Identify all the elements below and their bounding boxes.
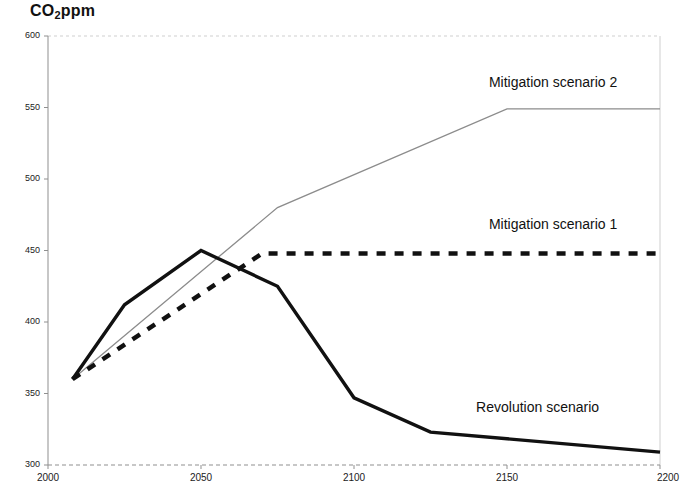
x-axis-tick-label: 2200 <box>643 472 684 483</box>
y-axis-tick-label: 400 <box>4 316 40 326</box>
x-axis-tick-label: 2000 <box>23 472 73 483</box>
series-line-3 <box>73 251 661 453</box>
series-label: Revolution scenario <box>476 399 599 415</box>
series-line-1 <box>73 109 661 379</box>
series-label: Mitigation scenario 1 <box>489 216 617 232</box>
y-axis-tick-label: 600 <box>4 30 40 40</box>
y-axis-tick-label: 300 <box>4 459 40 469</box>
y-axis-tick-label: 550 <box>4 102 40 112</box>
x-axis-tick-label: 2100 <box>329 472 379 483</box>
y-axis-tick-label: 500 <box>4 173 40 183</box>
series-label: Mitigation scenario 2 <box>489 74 617 90</box>
y-axis-tick-label: 450 <box>4 245 40 255</box>
series-line-2 <box>73 253 661 379</box>
x-axis-tick-label: 2150 <box>482 472 532 483</box>
x-axis-tick-label: 2050 <box>176 472 226 483</box>
y-axis-tick-label: 350 <box>4 388 40 398</box>
